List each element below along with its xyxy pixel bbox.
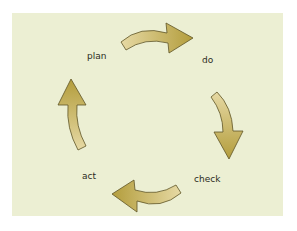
stage-label-plan: plan bbox=[87, 52, 106, 61]
arrow-check-to-act bbox=[112, 180, 181, 212]
arrow-do-to-check bbox=[211, 92, 243, 159]
arrow-plan-to-do bbox=[121, 23, 193, 53]
stage-label-act: act bbox=[82, 172, 96, 181]
arrow-act-to-plan bbox=[58, 79, 86, 150]
stage-label-check: check bbox=[194, 175, 220, 184]
stage-label-do: do bbox=[202, 56, 213, 65]
cycle-arrows bbox=[0, 0, 297, 231]
